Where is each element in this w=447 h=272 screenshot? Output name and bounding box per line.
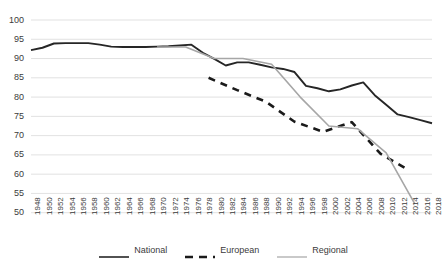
x-tick-label: 2010	[389, 197, 397, 215]
y-tick-label: 100	[0, 16, 24, 25]
x-tick-label: 1954	[69, 197, 77, 215]
y-tick-label: 85	[0, 73, 24, 82]
x-tick-label: 1966	[137, 197, 145, 215]
x-tick-label: 1960	[103, 197, 111, 215]
x-tick-label: 1982	[229, 197, 237, 215]
x-tick-label: 1986	[252, 197, 260, 215]
x-tick-label: 1968	[149, 197, 157, 215]
x-tick-label: 2006	[366, 197, 374, 215]
x-tick-label: 1952	[57, 197, 65, 215]
x-tick-label: 2008	[378, 197, 386, 215]
y-tick-label: 90	[0, 54, 24, 63]
x-tick-label: 2004	[355, 197, 363, 215]
x-tick-label: 1998	[321, 197, 329, 215]
legend-swatch-national	[99, 247, 129, 255]
x-tick-label: 1996	[309, 197, 317, 215]
y-tick-label: 60	[0, 170, 24, 179]
x-tick-label: 1964	[126, 197, 134, 215]
x-tick-label: 1992	[286, 197, 294, 215]
x-tick-label: 2016	[424, 197, 432, 215]
x-tick-label: 1978	[206, 197, 214, 215]
x-tick-label: 1950	[46, 197, 54, 215]
legend-item-national[interactable]: National	[99, 246, 167, 255]
x-tick-label: 2002	[344, 197, 352, 215]
legend-swatch-regional	[277, 247, 307, 255]
legend-item-regional[interactable]: Regional	[277, 246, 348, 255]
x-tick-label: 1984	[240, 197, 248, 215]
x-tick-label: 1956	[80, 197, 88, 215]
legend-label: European	[220, 246, 259, 255]
x-tick-label: 1958	[91, 197, 99, 215]
x-tick-label: 1974	[183, 197, 191, 215]
y-tick-label: 95	[0, 35, 24, 44]
x-tick-label: 1994	[298, 197, 306, 215]
series-lines	[31, 43, 432, 204]
y-tick-label: 75	[0, 112, 24, 121]
x-tick-label: 2018	[435, 197, 443, 215]
x-tick-label: 1988	[263, 197, 271, 215]
x-tick-label: 1976	[195, 197, 203, 215]
gridlines	[31, 20, 432, 213]
x-tick-label: 2000	[332, 197, 340, 215]
x-tick-label: 1948	[34, 197, 42, 215]
line-chart: 50556065707580859095100 1948195019521954…	[0, 0, 447, 272]
y-tick-label: 70	[0, 131, 24, 140]
series-line-national	[31, 43, 432, 123]
y-tick-label: 50	[0, 208, 24, 217]
x-tick-label: 1962	[114, 197, 122, 215]
y-tick-label: 80	[0, 93, 24, 102]
x-tick-label: 2012	[401, 197, 409, 215]
legend-item-european[interactable]: European	[185, 246, 259, 255]
chart-legend: NationalEuropeanRegional	[0, 246, 447, 255]
x-tick-label: 1972	[172, 197, 180, 215]
legend-swatch-european	[185, 247, 215, 255]
x-tick-label: 2014	[412, 197, 420, 215]
x-tick-label: 1990	[275, 197, 283, 215]
y-tick-label: 65	[0, 150, 24, 159]
x-tick-label: 1980	[218, 197, 226, 215]
series-line-european	[209, 78, 410, 171]
legend-label: Regional	[312, 246, 348, 255]
x-tick-label: 1970	[160, 197, 168, 215]
y-tick-label: 55	[0, 189, 24, 198]
legend-label: National	[134, 246, 167, 255]
chart-plot-area	[0, 0, 447, 272]
